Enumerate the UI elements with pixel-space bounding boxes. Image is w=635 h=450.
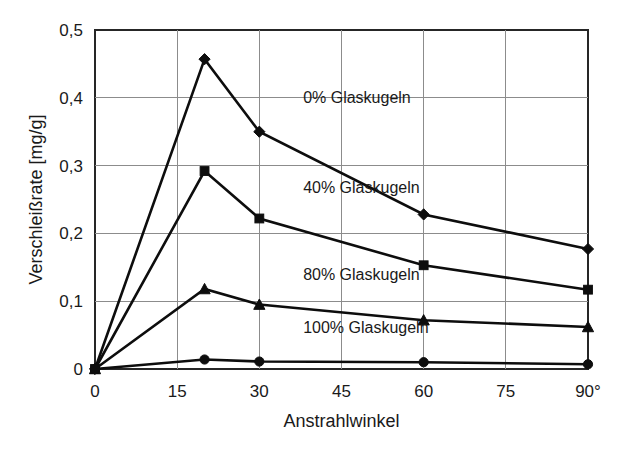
data-point-marker-circle — [255, 357, 264, 366]
y-tick-label: 0,5 — [59, 21, 83, 40]
y-tick-label: 0,1 — [59, 292, 83, 311]
y-tick-label: 0,3 — [59, 157, 83, 176]
y-tick-label: 0,4 — [59, 89, 83, 108]
x-tick-label: 15 — [168, 382, 187, 401]
y-tick-label: 0 — [74, 360, 83, 379]
data-point-marker-square — [200, 167, 209, 176]
data-point-marker-circle — [583, 360, 592, 369]
x-axis-title: Anstrahlwinkel — [283, 411, 399, 431]
x-tick-label: 45 — [332, 382, 351, 401]
data-point-marker-circle — [90, 364, 99, 373]
series-annotation-1: 40% Glaskugeln — [303, 179, 420, 196]
data-point-marker-circle — [419, 358, 428, 367]
chart-figure: 00,10,20,30,40,5 0153045607590° 0% Glask… — [0, 0, 635, 450]
wear-rate-line-chart: 00,10,20,30,40,5 0153045607590° 0% Glask… — [0, 0, 635, 450]
y-axis-title: Verschleißrate [mg/g] — [26, 114, 46, 284]
y-tick-label: 0,2 — [59, 224, 83, 243]
x-tick-label: 0 — [90, 382, 99, 401]
data-point-marker-circle — [200, 355, 209, 364]
x-tick-label: 75 — [496, 382, 515, 401]
x-tick-label: 90° — [575, 382, 601, 401]
series-annotation-3: 100% Glaskugeln — [303, 319, 428, 336]
data-point-marker-square — [255, 214, 264, 223]
x-tick-label: 60 — [414, 382, 433, 401]
series-annotation-0: 0% Glaskugeln — [303, 89, 411, 106]
x-tick-label: 30 — [250, 382, 269, 401]
data-point-marker-square — [419, 261, 428, 270]
data-point-marker-square — [584, 285, 593, 294]
series-annotation-2: 80% Glaskugeln — [303, 266, 420, 283]
